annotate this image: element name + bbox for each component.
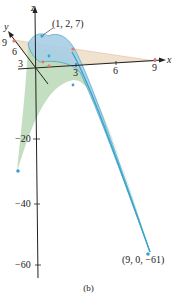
x-tick-label-3: 3 <box>73 67 78 78</box>
y-tick-label-9: 9 <box>2 37 7 48</box>
left-end-marker <box>16 169 20 173</box>
y-tick-label-3: 3 <box>18 58 23 69</box>
x-axis-arrow-icon <box>159 58 166 63</box>
z-axis-label: z <box>30 2 35 13</box>
surface-plot: z y x (1, 2, 7) (9, 0, −61) 9 6 3 3 6 9 … <box>0 0 177 299</box>
max-point-label: (1, 2, 7) <box>52 18 84 30</box>
red-point <box>12 39 15 42</box>
green-point-marker <box>72 84 75 87</box>
z-tick-label-minus20: −20 <box>15 133 31 144</box>
y-axis-arrow-icon <box>8 31 14 38</box>
y-axis-label: y <box>3 21 9 32</box>
red-point <box>48 65 51 68</box>
z-tick-label-minus60: −60 <box>15 259 31 270</box>
z-tick-label-minus40: −40 <box>15 198 31 209</box>
x-axis-label: x <box>166 54 172 65</box>
max-point-leader <box>43 28 53 35</box>
x-tick-label-9: 9 <box>152 62 157 73</box>
red-point <box>42 61 45 64</box>
min-point-label: (9, 0, −61) <box>122 254 164 266</box>
y-tick-label-6: 6 <box>12 46 17 57</box>
blue-point <box>48 55 51 58</box>
x-tick-label-6: 6 <box>113 65 118 76</box>
red-point <box>71 47 74 50</box>
figure-caption: (b) <box>0 283 177 293</box>
